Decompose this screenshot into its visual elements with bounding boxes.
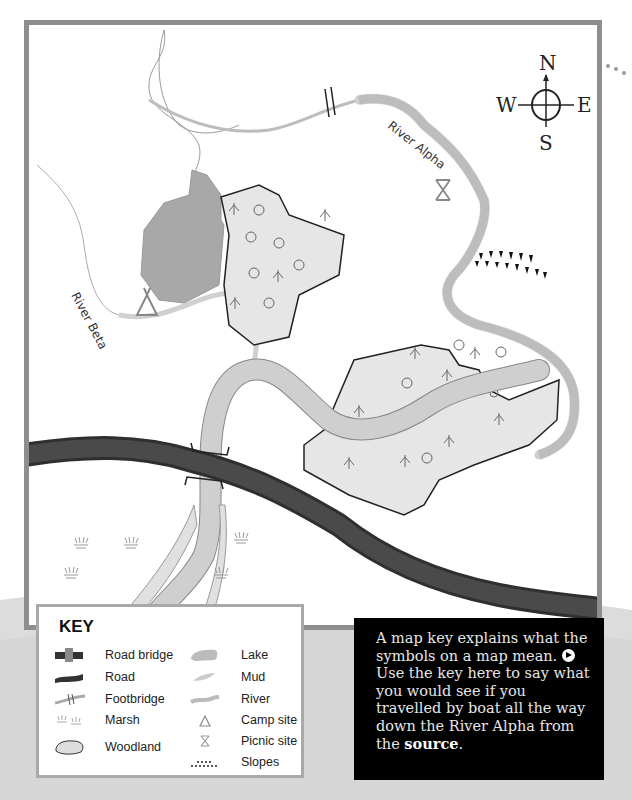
slopes-icon bbox=[189, 754, 231, 770]
key-item-road: Road bbox=[53, 669, 135, 685]
compass-south: S bbox=[539, 131, 553, 155]
key-item-lake: Lake bbox=[189, 647, 268, 663]
key-item-road-bridge: Road bridge bbox=[53, 647, 173, 663]
compass-east: E bbox=[577, 93, 592, 117]
key-item-marsh: Marsh bbox=[53, 712, 140, 728]
key-item-slopes: Slopes bbox=[189, 754, 279, 770]
info-text-intro: A map key explains what the symbols on a… bbox=[376, 630, 587, 664]
picnic-site bbox=[436, 180, 450, 200]
mud-icon bbox=[189, 669, 231, 685]
compass-icon: N S E W bbox=[496, 51, 592, 155]
compass-north: N bbox=[539, 51, 557, 75]
lake-icon bbox=[189, 647, 231, 663]
woodland-icon bbox=[53, 739, 95, 755]
play-arrow-icon bbox=[562, 649, 575, 662]
picnic-site-icon bbox=[189, 733, 231, 749]
key-item-camp-site: Camp site bbox=[189, 712, 297, 728]
footbridge bbox=[325, 87, 335, 117]
decorative-dots bbox=[604, 62, 632, 76]
river-alpha-label: River Alpha bbox=[385, 118, 448, 172]
footbridge-icon bbox=[53, 691, 95, 707]
marsh-icon bbox=[53, 712, 95, 728]
road-bridge-icon bbox=[53, 647, 95, 663]
map-key: KEY Road bridge Road Footbridge Marsh Wo… bbox=[36, 604, 304, 778]
key-item-river: River bbox=[189, 691, 270, 707]
key-item-woodland: Woodland bbox=[53, 739, 161, 755]
river-beta-label: River Beta bbox=[68, 290, 110, 352]
river-icon bbox=[189, 691, 231, 707]
key-title: KEY bbox=[59, 617, 94, 637]
info-bold-word: source bbox=[404, 735, 458, 752]
key-item-picnic-site: Picnic site bbox=[189, 733, 297, 749]
lake bbox=[141, 170, 224, 303]
info-box: A map key explains what the symbols on a… bbox=[354, 618, 604, 780]
map-frame: River Alpha River Beta N S E W bbox=[24, 20, 602, 630]
map-canvas: River Alpha River Beta N S E W bbox=[29, 25, 597, 625]
road-icon bbox=[53, 669, 95, 685]
compass-west: W bbox=[496, 93, 517, 117]
camp-site-icon bbox=[189, 712, 231, 728]
slopes bbox=[475, 251, 547, 279]
key-item-footbridge: Footbridge bbox=[53, 691, 165, 707]
woodland-north bbox=[221, 185, 344, 345]
key-item-mud: Mud bbox=[189, 669, 265, 685]
